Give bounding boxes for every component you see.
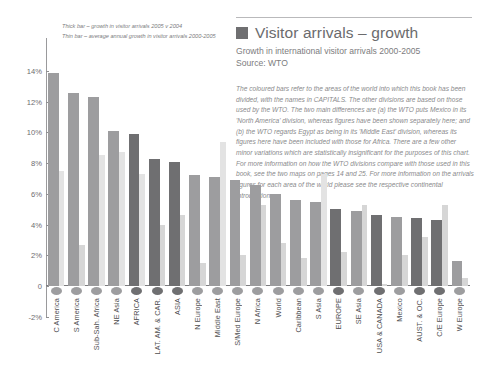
- category-label-item: Sub-Sah. Africa: [86, 286, 106, 382]
- category-marker-icon: [333, 287, 344, 295]
- category-label-item: N Europe: [187, 286, 207, 382]
- bar-thin: [220, 142, 226, 286]
- bar-thin: [160, 225, 166, 286]
- category-label: N Africa: [253, 298, 262, 324]
- bar-thin: [79, 245, 85, 286]
- bar-group: [127, 40, 147, 286]
- bar-thin: [442, 205, 448, 286]
- category-marker-icon: [91, 287, 102, 295]
- bar-group: [86, 40, 106, 286]
- bar-thin: [240, 255, 246, 286]
- bar-group: [66, 40, 86, 286]
- category-marker-icon: [212, 287, 223, 295]
- bar-thick: [129, 134, 140, 286]
- category-marker-icon: [394, 287, 405, 295]
- plot-area: 14%12%10%8%6%4%2%0-2%: [46, 40, 470, 286]
- y-tick-label: -2%: [28, 312, 42, 321]
- bar-group: [430, 40, 450, 286]
- bar-thin: [119, 152, 125, 286]
- category-label: NE Asia: [112, 298, 121, 325]
- bar-thin: [321, 174, 327, 286]
- bar-thin: [59, 171, 65, 286]
- header-divider: [236, 17, 472, 18]
- bar-thin: [139, 174, 145, 286]
- y-tick-label: 2%: [31, 251, 42, 260]
- visitor-arrivals-growth-chart: Visitor arrivals – growth Growth in inte…: [0, 0, 479, 385]
- bar-thick: [169, 162, 180, 286]
- y-tick-label: 8%: [31, 159, 42, 168]
- bar-group: [147, 40, 167, 286]
- category-label: ASIA: [173, 298, 182, 315]
- category-label: AUST. & OC.: [415, 298, 424, 342]
- bar-thick: [68, 93, 79, 287]
- bar-thick: [310, 202, 321, 286]
- category-marker-icon: [172, 287, 183, 295]
- bar-group: [268, 40, 288, 286]
- bar-thin: [281, 243, 287, 286]
- category-marker-icon: [131, 287, 142, 295]
- bar-thick: [290, 200, 301, 286]
- y-tick-label: 0: [38, 282, 42, 291]
- bar-thick: [88, 97, 99, 286]
- category-marker-icon: [152, 287, 163, 295]
- category-label-item: ASIA: [167, 286, 187, 382]
- bar-thick: [371, 215, 382, 286]
- bar-group: [329, 40, 349, 286]
- bar-thick: [391, 217, 402, 286]
- category-marker-icon: [192, 287, 203, 295]
- x-axis-categories: C AmericaS AmericaSub-Sah. AfricaNE Asia…: [46, 286, 470, 382]
- bar-thin: [99, 155, 105, 286]
- bar-thick: [230, 180, 241, 286]
- bar-group: [450, 40, 470, 286]
- category-label: Mexico: [395, 298, 404, 322]
- category-label-item: Caribbean: [288, 286, 308, 382]
- category-label: N Europe: [193, 298, 202, 330]
- bar-thin: [362, 205, 368, 286]
- y-tick-label: 4%: [31, 220, 42, 229]
- bar-thin: [180, 215, 186, 286]
- category-marker-icon: [454, 287, 465, 295]
- category-label-item: S Asia: [308, 286, 328, 382]
- bar-thick: [108, 131, 119, 286]
- bar-group: [389, 40, 409, 286]
- category-marker-icon: [414, 287, 425, 295]
- bar-thick: [149, 159, 160, 286]
- category-label: Caribbean: [294, 298, 303, 333]
- bar-group: [349, 40, 369, 286]
- bar-thick: [431, 220, 442, 286]
- category-label-item: AFRICA: [127, 286, 147, 382]
- bar-thick: [452, 261, 463, 286]
- bar-group: [409, 40, 429, 286]
- bar-thin: [261, 205, 267, 286]
- category-marker-icon: [252, 287, 263, 295]
- category-label: Middle East: [213, 298, 222, 337]
- bar-group: [167, 40, 187, 286]
- category-label: S Asia: [314, 298, 323, 319]
- bar-group: [228, 40, 248, 286]
- bar-group: [187, 40, 207, 286]
- legend-swatch-icon: [236, 27, 248, 39]
- bar-group: [288, 40, 308, 286]
- category-marker-icon: [313, 287, 324, 295]
- bar-thin: [402, 255, 408, 286]
- category-label-item: C/E Europe: [430, 286, 450, 382]
- category-label-item: SE Asia: [349, 286, 369, 382]
- category-label: LAT. AM. & CAR.: [153, 298, 162, 355]
- bar-group: [107, 40, 127, 286]
- category-label-item: Middle East: [208, 286, 228, 382]
- category-label-item: EUROPE: [329, 286, 349, 382]
- bar-group: [46, 40, 66, 286]
- bar-thin: [462, 278, 468, 286]
- category-label-item: N Africa: [248, 286, 268, 382]
- category-label-item: W Europe: [450, 286, 470, 382]
- bar-group: [308, 40, 328, 286]
- category-marker-icon: [273, 287, 284, 295]
- category-marker-icon: [293, 287, 304, 295]
- bar-thick: [48, 73, 59, 286]
- category-label-item: AUST. & OC.: [409, 286, 429, 382]
- y-tick-label: 12%: [27, 97, 42, 106]
- y-tick-label: 6%: [31, 189, 42, 198]
- y-tick-label: 14%: [27, 67, 42, 76]
- category-label-item: LAT. AM. & CAR.: [147, 286, 167, 382]
- category-label-item: NE Asia: [107, 286, 127, 382]
